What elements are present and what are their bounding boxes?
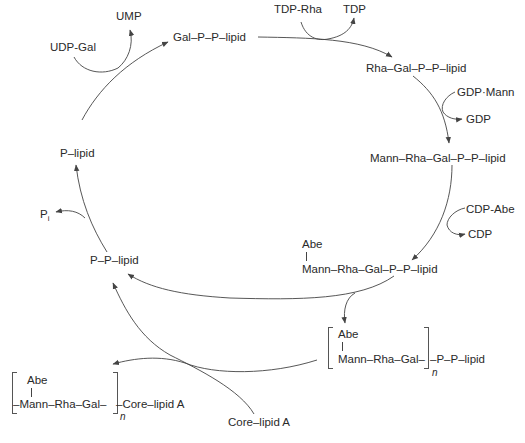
label-udp-gal: UDP-Gal [50,41,96,54]
node-gal-pp-lipid: Gal–P–P–lipid [173,31,246,44]
node-mann-rha-gal-pp-lipid: Mann–Rha–Gal–P–P–lipid [370,152,506,165]
node-p-lipid: P–lipid [60,147,95,160]
arrow-pplipid-to-plipid [76,165,107,252]
label-cdp: CDP [468,228,492,241]
label-cdp-abe: CDP-Abe [466,203,515,216]
final-abe-bond [31,388,32,397]
arrow-to-polymer [344,293,355,323]
polymer-abe-bond [342,342,343,351]
node-abe-mann-rha-gal-pp-lipid: Mann–Rha–Gal–P–P–lipid [302,263,438,276]
label-ump: UMP [116,10,142,23]
arrow-polymer-to-final [113,358,317,372]
polymer-bracket-left [328,327,333,369]
node-pp-lipid: P–P–lipid [90,254,139,267]
final-unit: –Mann–Rha–Gal– [13,398,106,411]
arrow-tdprha-tdp [301,18,354,40]
pi-main: P [40,208,48,220]
arrow-abe-to-pplipid [128,274,394,299]
final-tail: –Core–lipid A [116,398,184,411]
arrow-mann-to-abe [412,165,452,260]
polymer-repeat-n: n [432,366,438,379]
polymer-unit: Mann–Rha–Gal– [338,353,425,366]
polymer-tail: –P–P–lipid [430,353,485,366]
final-repeat-n: n [120,410,126,423]
pi-subscript: i [48,214,50,223]
abe-branch-bond [306,252,307,261]
label-gdp: GDP [466,113,491,126]
label-tdp: TDP [343,3,366,16]
arrow-rha-to-mann [413,76,449,143]
node-rha-gal-pp-lipid: Rha–Gal–P–P–lipid [366,62,466,75]
label-gdp-mann: GDP·Mann [457,86,515,99]
node-abe-branch-label: Abe [302,238,322,251]
arrow-corelipid-to-pplipid [113,283,254,414]
arrow-gal-to-rha [258,37,392,57]
label-core-lipid-a: Core–lipid A [228,416,290,429]
polymer-bracket-right [424,327,429,369]
label-pi: Pi [40,208,49,225]
final-abe: Abe [27,374,47,387]
arrow-pi-release [56,211,85,218]
label-tdp-rha: TDP-Rha [274,3,322,16]
arrow-cdpabe-cdp [447,208,465,235]
polymer-abe: Abe [338,328,358,341]
